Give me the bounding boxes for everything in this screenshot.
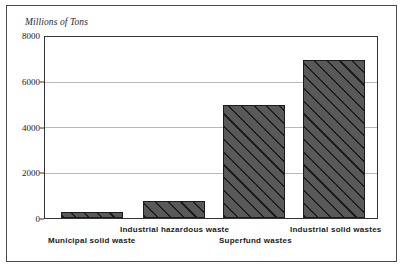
y-axis-tick-labels: 0 2000 4000 6000 8000	[0, 36, 40, 219]
bar-municipal-solid-waste[interactable]	[61, 212, 123, 218]
category-label-industrial-solid-wastes: Industrial solid wastes	[290, 225, 382, 234]
y-tick-label-0: 0	[0, 214, 40, 224]
bar-industrial-solid-wastes[interactable]	[303, 60, 365, 218]
bars-container	[45, 37, 376, 218]
y-tick-label-6000: 6000	[0, 77, 40, 87]
y-tick-label-8000: 8000	[0, 31, 40, 41]
y-tick-label-4000: 4000	[0, 123, 40, 133]
category-label-municipal-solid-waste: Municipal solid waste	[48, 236, 136, 245]
category-label-superfund-wastes: Superfund wastes	[219, 236, 292, 245]
y-tick-label-2000: 2000	[0, 168, 40, 178]
bar-chart-figure: Millions of Tons 0 2000 4000 6000 8000 M…	[0, 0, 411, 271]
bar-superfund-wastes[interactable]	[223, 105, 285, 218]
bar-industrial-hazardous-waste[interactable]	[143, 201, 205, 218]
category-label-industrial-hazardous-waste: Industrial hazardous waste	[120, 225, 229, 234]
y-axis-title: Millions of Tons	[25, 17, 88, 27]
